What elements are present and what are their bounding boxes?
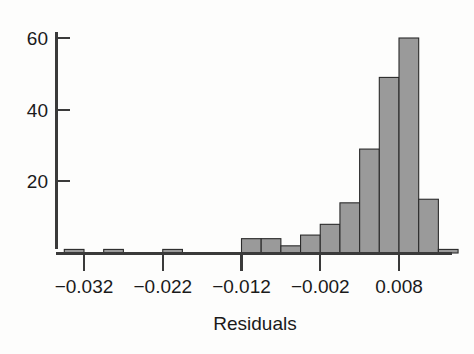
histogram-bar [340,203,360,253]
x-axis-tick-labels: −0.032−0.022−0.012−0.0020.008 [55,276,423,297]
histogram-bar [301,235,321,253]
y-axis-group: 204060 [27,28,70,249]
histogram-figure: 204060 −0.032−0.022−0.012−0.0020.008 Res… [0,0,474,354]
y-axis-tick-label: 40 [27,100,48,121]
y-axis-tick-label: 60 [27,28,48,49]
histogram-canvas: 204060 −0.032−0.022−0.012−0.0020.008 Res… [0,0,474,354]
bars-group [64,38,458,253]
x-axis-ticks [84,254,399,271]
x-axis-tick-label: −0.032 [55,276,114,297]
x-axis-tick-label: −0.022 [133,276,192,297]
x-axis-tick-label: 0.008 [375,276,423,297]
y-axis-tick-label: 20 [27,171,48,192]
histogram-bar [399,38,419,253]
histogram-bar [419,199,439,253]
histogram-bar [281,246,301,253]
x-axis-tick-label: −0.002 [291,276,350,297]
y-axis-tick-labels: 204060 [27,28,48,192]
histogram-bar [360,149,380,253]
histogram-bar [242,239,262,253]
x-axis-title: Residuals [213,313,296,334]
x-axis-tick-label: −0.012 [212,276,271,297]
histogram-bar [379,77,399,253]
histogram-bar [320,224,340,253]
y-axis-ticks [57,38,70,181]
x-axis-group: −0.032−0.022−0.012−0.0020.008 [55,254,452,298]
histogram-bar [261,239,281,253]
